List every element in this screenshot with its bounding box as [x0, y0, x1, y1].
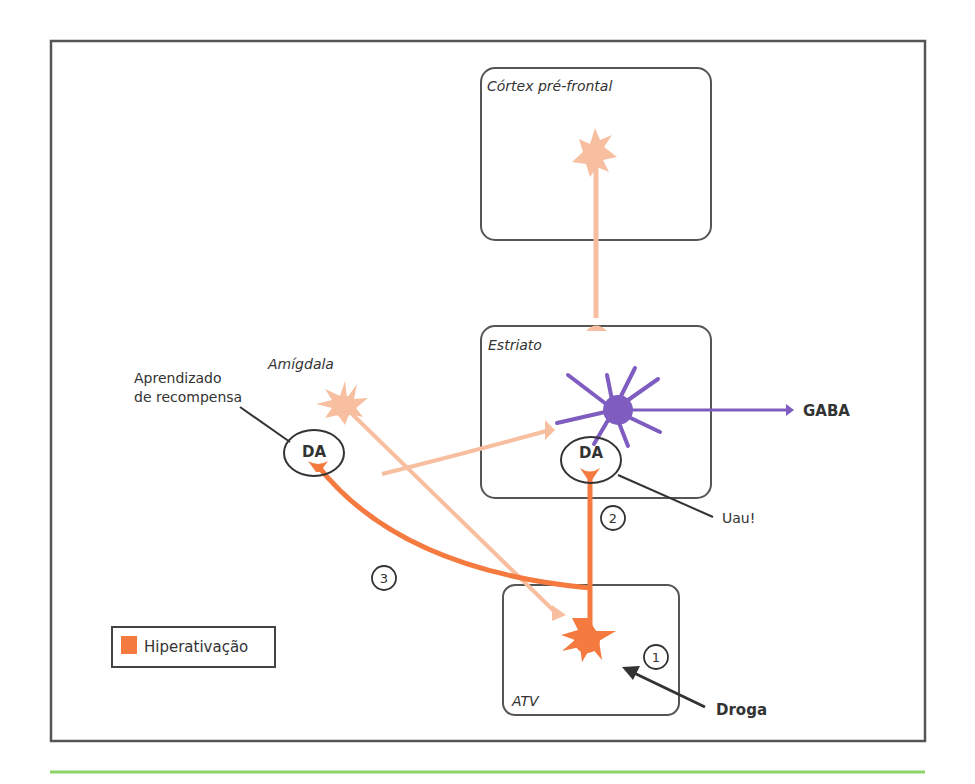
da-amygdala-label: DA — [302, 443, 326, 461]
region-vta-label: ATV — [511, 693, 540, 709]
reward-learning-leader — [240, 407, 290, 442]
vta-amygdala-axon — [318, 466, 590, 588]
step-3: 3 — [372, 566, 396, 590]
reward-learning-label-2: de recompensa — [134, 389, 242, 405]
gaba-neuron-soma — [603, 395, 633, 425]
amygdala-neuron — [316, 381, 368, 425]
legend: Hiperativação — [112, 627, 275, 667]
region-cortex-label: Córtex pré-frontal — [487, 78, 612, 94]
reward-learning-label-1: Aprendizado — [134, 370, 222, 386]
wow-leader — [618, 475, 713, 517]
step-1: 1 — [644, 645, 668, 669]
wow-label: Uau! — [722, 510, 755, 526]
region-amygdala-label: Amígdala — [267, 356, 334, 372]
legend-label: Hiperativação — [144, 638, 248, 656]
vta-amygdala-terminal — [308, 461, 328, 472]
reward-circuit-diagram: Córtex pré-frontal Estriato ATV Amígdala… — [0, 0, 975, 784]
da-striatum-label: DA — [579, 444, 603, 462]
amygdala-vta-terminal — [552, 605, 566, 621]
svg-text:2: 2 — [609, 511, 617, 526]
region-striatum-label: Estriato — [488, 337, 542, 353]
vta-striatum-terminal — [580, 468, 600, 480]
legend-swatch-hyperactive — [121, 636, 137, 654]
drug-label: Droga — [716, 701, 767, 719]
step-2: 2 — [601, 506, 625, 530]
svg-text:3: 3 — [380, 571, 388, 586]
gaba-axon-terminal — [786, 404, 794, 416]
drug-arrow — [622, 666, 705, 707]
gaba-label: GABA — [803, 402, 850, 420]
gaba-neuron — [557, 368, 790, 446]
amygdala-striatum-terminal — [545, 420, 555, 440]
amygdala-striatum-axon — [382, 430, 550, 474]
svg-text:1: 1 — [652, 650, 660, 665]
